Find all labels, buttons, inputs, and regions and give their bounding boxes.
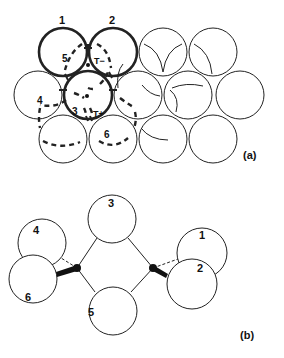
lattice-circle	[189, 115, 237, 163]
panel-b	[9, 195, 227, 335]
label-a-5: 5	[62, 53, 68, 64]
circle-b-2	[167, 259, 217, 309]
lattice-circle	[39, 115, 87, 163]
bond-line	[128, 238, 153, 268]
diagram-canvas: 1 2 3 4 5 6 T− T+ (a) 3 4 6 5 1 2 (b)	[0, 0, 284, 358]
tetrahedral-site-dot	[85, 94, 89, 98]
label-t-minus: T−	[94, 56, 105, 66]
bond-line	[77, 238, 97, 268]
panel-b-label: (b)	[240, 329, 254, 341]
circle-1	[39, 28, 87, 76]
central-atom-right	[149, 264, 157, 272]
circle-2	[89, 28, 137, 76]
lattice-circle	[139, 115, 187, 163]
label-a-3: 3	[72, 106, 78, 117]
lattice-circle	[216, 71, 264, 119]
panel-a	[14, 28, 264, 163]
tetrahedral-site-dot	[86, 63, 90, 67]
label-b-5: 5	[88, 306, 94, 318]
label-b-2: 2	[197, 262, 203, 274]
lattice-circle	[139, 28, 187, 76]
bond-line	[77, 268, 95, 292]
label-b-4: 4	[33, 224, 40, 236]
label-a-6: 6	[104, 129, 110, 140]
circle-b-6	[9, 255, 57, 303]
thin-arcs	[118, 44, 212, 140]
lattice-circle	[89, 115, 137, 163]
circle-lattice	[14, 28, 264, 163]
label-a-4: 4	[37, 95, 43, 106]
lattice-circle	[189, 28, 237, 76]
label-a-2: 2	[109, 14, 115, 26]
label-b-1: 1	[199, 229, 205, 241]
circle-b-5	[89, 287, 137, 335]
bond-line	[131, 268, 153, 292]
label-t-plus: T+	[93, 109, 104, 119]
panel-a-label: (a)	[243, 149, 257, 161]
label-b-3: 3	[108, 197, 114, 209]
lattice-circle	[164, 71, 212, 119]
central-atom-left	[73, 264, 81, 272]
label-a-1: 1	[59, 14, 65, 26]
label-b-6: 6	[25, 291, 31, 303]
